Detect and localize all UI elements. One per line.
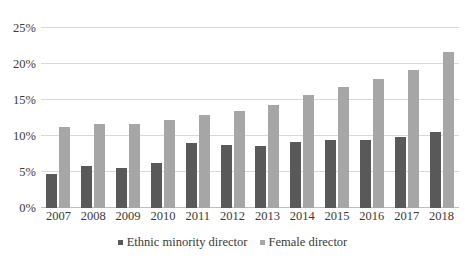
x-axis-tick-label: 2008 <box>76 210 111 223</box>
y-axis-labels: 0%5%10%15%20%25% <box>0 28 36 208</box>
bar[interactable] <box>268 105 279 208</box>
x-axis-tick-label: 2018 <box>424 210 459 223</box>
x-axis-tick-label: 2014 <box>285 210 320 223</box>
y-axis-tick-label: 25% <box>13 22 36 35</box>
legend-entry-ethnic-minority-director[interactable]: Ethnic minority director <box>118 236 248 249</box>
bar[interactable] <box>81 166 92 208</box>
bar-group <box>285 28 320 208</box>
bar[interactable] <box>430 132 441 208</box>
bar[interactable] <box>116 168 127 208</box>
x-axis-tick-label: 2017 <box>389 210 424 223</box>
bar[interactable] <box>443 52 454 208</box>
x-axis-labels: 2007200820092010201120122013201420152016… <box>41 210 459 223</box>
bar[interactable] <box>199 115 210 208</box>
bar[interactable] <box>221 145 232 208</box>
bar[interactable] <box>255 146 266 208</box>
bar[interactable] <box>338 87 349 208</box>
legend-entry-female-director[interactable]: Female director <box>260 236 348 249</box>
bar[interactable] <box>46 174 57 208</box>
x-axis-tick-label: 2015 <box>320 210 355 223</box>
bar-group <box>250 28 285 208</box>
bar[interactable] <box>360 140 371 208</box>
bar-group <box>389 28 424 208</box>
y-axis-tick-label: 5% <box>19 166 36 179</box>
chart-legend: Ethnic minority director Female director <box>0 236 465 249</box>
legend-swatch-icon <box>260 240 265 245</box>
bar-group <box>180 28 215 208</box>
bar-groups <box>41 28 459 208</box>
bar[interactable] <box>164 120 175 208</box>
legend-label: Ethnic minority director <box>127 236 248 249</box>
x-axis-tick-label: 2013 <box>250 210 285 223</box>
bar[interactable] <box>151 163 162 208</box>
bar-group <box>320 28 355 208</box>
bar[interactable] <box>94 124 105 208</box>
x-axis-tick-label: 2016 <box>354 210 389 223</box>
bar-group <box>145 28 180 208</box>
bar-group <box>41 28 76 208</box>
y-axis-tick-label: 0% <box>19 202 36 215</box>
bar[interactable] <box>59 127 70 208</box>
y-axis-tick-label: 20% <box>13 58 36 71</box>
y-axis-tick-label: 10% <box>13 130 36 143</box>
bar-group <box>424 28 459 208</box>
legend-swatch-icon <box>118 240 123 245</box>
bar-chart: 0%5%10%15%20%25% 20072008200920102011201… <box>0 0 465 258</box>
bar-group <box>76 28 111 208</box>
bar[interactable] <box>373 79 384 208</box>
x-axis-tick-label: 2010 <box>145 210 180 223</box>
bar-group <box>215 28 250 208</box>
bar[interactable] <box>325 140 336 208</box>
bar-group <box>354 28 389 208</box>
x-axis-tick-label: 2009 <box>111 210 146 223</box>
y-axis-tick-label: 15% <box>13 94 36 107</box>
bar[interactable] <box>234 111 245 208</box>
x-axis-tick-label: 2007 <box>41 210 76 223</box>
bar[interactable] <box>408 70 419 208</box>
bar[interactable] <box>186 143 197 208</box>
bar[interactable] <box>290 142 301 208</box>
bar[interactable] <box>395 137 406 208</box>
bar-group <box>111 28 146 208</box>
bar[interactable] <box>303 95 314 208</box>
legend-label: Female director <box>269 236 348 249</box>
bar[interactable] <box>129 124 140 208</box>
x-axis-tick-label: 2012 <box>215 210 250 223</box>
x-axis-tick-label: 2011 <box>180 210 215 223</box>
